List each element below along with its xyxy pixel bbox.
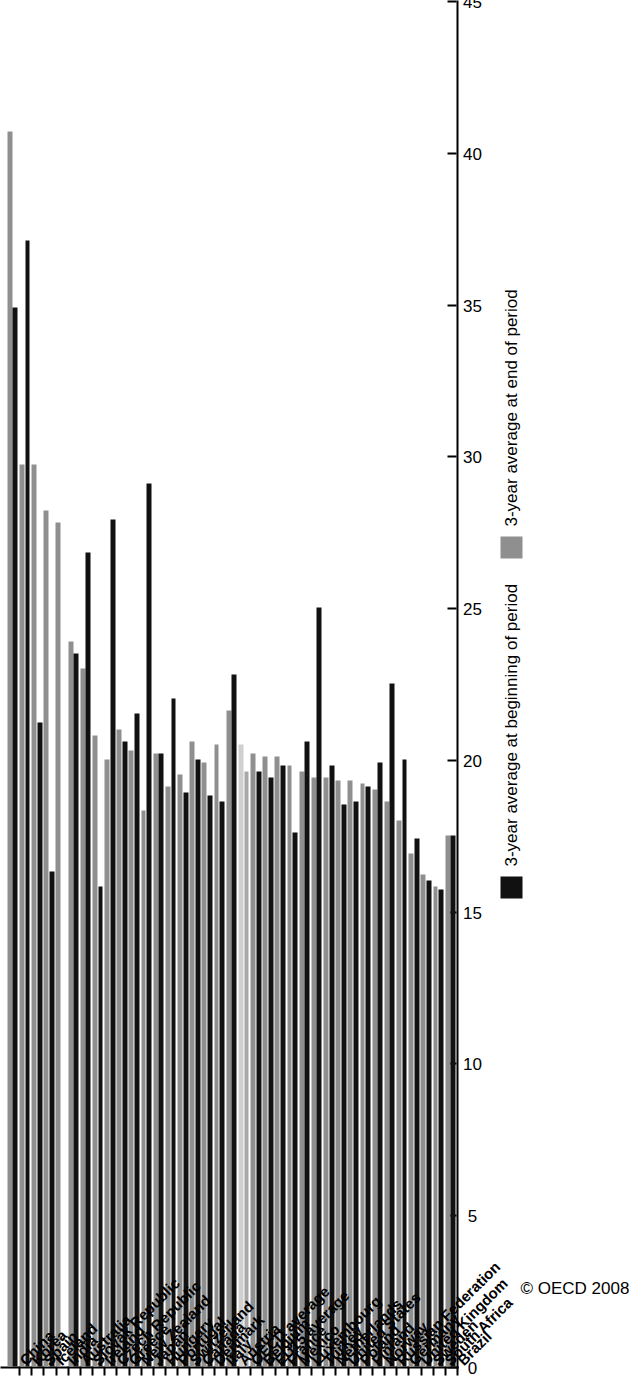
legend-item: 3-year average at beginning of period (500, 583, 522, 898)
legend-label: 3-year average at end of period (501, 289, 521, 526)
copyright-notice: © OECD 2008 (520, 1278, 629, 1298)
chart-legend: 3-year average at beginning of period3-y… (500, 298, 620, 898)
legend-swatch (500, 876, 522, 898)
legend-item: 3-year average at end of period (500, 289, 522, 558)
legend-label: 3-year average at beginning of period (501, 583, 521, 866)
legend-swatch (500, 536, 522, 558)
